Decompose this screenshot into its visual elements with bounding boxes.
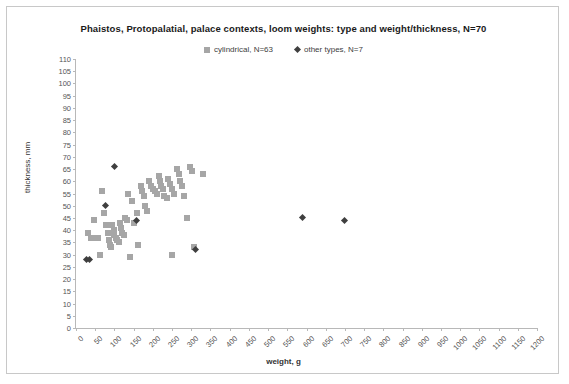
x-tick-mark [307,328,308,331]
y-tick-mark [73,132,76,133]
x-tick-mark [230,328,231,331]
y-tick-label: 15 [63,287,71,296]
x-tick-label: 850 [397,334,412,349]
y-tick-mark [73,206,76,207]
y-tick-label: 40 [63,226,71,235]
x-tick-label: 500 [262,334,277,349]
y-tick-mark [73,291,76,292]
x-tick-mark [114,328,115,331]
x-tick-label: 200 [147,334,162,349]
x-tick-label: 550 [281,334,296,349]
y-tick-label: 75 [63,140,71,149]
x-tick-mark [537,328,538,331]
y-tick-mark [73,83,76,84]
y-tick-mark [73,218,76,219]
data-point-other-types [299,214,306,221]
y-tick-label: 70 [63,152,71,161]
y-tick-label: 45 [63,213,71,222]
y-tick-label: 0 [67,324,71,333]
chart-frame: Phaistos, Protopalatial, palace contexts… [6,6,559,374]
x-tick-mark [249,328,250,331]
data-point-cylindrical [179,183,185,189]
data-point-cylindrical [108,244,114,250]
data-point-cylindrical [91,217,97,223]
legend-label-other-types: other types, N=7 [304,45,363,54]
x-tick-label: 1200 [528,334,546,352]
x-tick-mark [287,328,288,331]
x-tick-mark [191,328,192,331]
chart-legend: cylindrical, N=63 other types, N=7 [7,45,560,54]
plot-container: 0510152025303540455055606570758085909510… [69,59,537,329]
x-tick-label: 950 [435,334,450,349]
y-tick-mark [73,71,76,72]
y-tick-label: 5 [67,311,71,320]
y-tick-label: 65 [63,165,71,174]
x-tick-label: 400 [224,334,239,349]
x-tick-mark [95,328,96,331]
x-tick-label: 50 [92,334,104,346]
data-point-other-types [341,217,348,224]
x-axis-label: weight, g [7,357,560,366]
data-point-cylindrical [101,210,107,216]
data-point-cylindrical [105,230,111,236]
y-tick-mark [73,316,76,317]
data-point-other-types [111,163,118,170]
legend-label-cylindrical: cylindrical, N=63 [214,45,273,54]
legend-item-cylindrical: cylindrical, N=63 [204,45,273,54]
x-tick-mark [518,328,519,331]
x-tick-label: 1100 [490,334,508,352]
x-tick-label: 450 [243,334,258,349]
x-tick-label: 650 [320,334,335,349]
x-tick-label: 1000 [451,334,469,352]
data-point-cylindrical [121,232,127,238]
y-tick-label: 80 [63,128,71,137]
x-tick-mark [172,328,173,331]
y-tick-label: 50 [63,201,71,210]
y-tick-mark [73,279,76,280]
y-tick-label: 25 [63,262,71,271]
x-tick-label: 0 [76,334,85,343]
x-tick-mark [326,328,327,331]
data-point-cylindrical [144,208,150,214]
y-tick-label: 55 [63,189,71,198]
y-tick-mark [73,145,76,146]
x-tick-label: 900 [416,334,431,349]
x-tick-label: 350 [205,334,220,349]
y-tick-mark [73,267,76,268]
data-point-cylindrical [200,171,206,177]
x-tick-mark [268,328,269,331]
data-point-cylindrical [160,186,166,192]
x-tick-mark [403,328,404,331]
y-tick-label: 85 [63,116,71,125]
data-point-cylindrical [129,198,135,204]
y-tick-mark [73,242,76,243]
y-tick-mark [73,120,76,121]
legend-item-other-types: other types, N=7 [295,45,363,54]
y-tick-label: 30 [63,250,71,259]
x-tick-mark [441,328,442,331]
x-tick-mark [134,328,135,331]
y-tick-mark [73,181,76,182]
x-tick-label: 600 [301,334,316,349]
data-point-cylindrical [189,168,195,174]
x-tick-label: 800 [377,334,392,349]
y-tick-label: 35 [63,238,71,247]
y-tick-mark [73,169,76,170]
plot-area: 0510152025303540455055606570758085909510… [75,59,537,329]
x-tick-mark [153,328,154,331]
y-tick-label: 105 [58,67,71,76]
x-tick-label: 1050 [471,334,489,352]
x-tick-mark [422,328,423,331]
x-tick-label: 750 [358,334,373,349]
data-point-cylindrical [176,171,182,177]
data-point-cylindrical [124,217,130,223]
legend-diamond-marker-icon [294,46,301,53]
y-tick-mark [73,304,76,305]
y-tick-mark [73,255,76,256]
x-tick-mark [499,328,500,331]
x-tick-label: 250 [166,334,181,349]
y-tick-mark [73,108,76,109]
data-point-cylindrical [125,191,131,197]
x-tick-mark [364,328,365,331]
x-tick-label: 100 [109,334,124,349]
